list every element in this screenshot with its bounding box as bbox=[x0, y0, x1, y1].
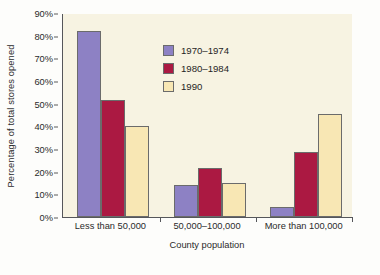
legend-item-label: 1990 bbox=[181, 81, 202, 92]
legend-color-swatch bbox=[163, 45, 174, 56]
legend-color-swatch bbox=[163, 63, 174, 74]
x-axis-group-separator bbox=[352, 217, 353, 222]
x-axis-tick-labels: Less than 50,00050,000–100,000More than … bbox=[62, 221, 352, 237]
y-axis-tick-label: 50% bbox=[34, 100, 53, 110]
y-axis-tick-label: 20% bbox=[34, 168, 53, 178]
y-axis-tick-labels: 0%10%20%30%40%50%60%70%80%90% bbox=[22, 14, 58, 218]
x-axis-tick-label: More than 100,000 bbox=[265, 221, 343, 231]
bar bbox=[318, 114, 342, 217]
y-axis-tick-label: 30% bbox=[34, 145, 53, 155]
y-axis-tick-mark bbox=[54, 195, 58, 196]
legend-item-label: 1970–1974 bbox=[181, 45, 229, 56]
bar bbox=[222, 183, 246, 217]
y-axis-tick-mark bbox=[54, 36, 58, 37]
y-axis-tick-label: 70% bbox=[34, 54, 53, 64]
y-axis-tick-label: 60% bbox=[34, 77, 53, 87]
x-axis-tick-label: 50,000–100,000 bbox=[173, 221, 240, 231]
y-axis-title: Percentage of total stores opened bbox=[0, 0, 22, 232]
bar bbox=[270, 207, 294, 217]
x-axis-tick-label: Less than 50,000 bbox=[75, 221, 146, 231]
bar bbox=[77, 31, 101, 217]
legend-item: 1990 bbox=[163, 78, 229, 95]
chart-legend: 1970–19741980–19841990 bbox=[163, 42, 229, 96]
bar bbox=[198, 168, 222, 217]
legend-item-label: 1980–1984 bbox=[181, 63, 229, 74]
y-axis-tick-mark bbox=[54, 104, 58, 105]
y-axis-tick-mark bbox=[54, 14, 58, 15]
bar bbox=[174, 185, 198, 217]
x-axis-title: County population bbox=[62, 240, 352, 250]
y-axis-tick-mark bbox=[54, 150, 58, 151]
y-axis-tick-mark bbox=[54, 59, 58, 60]
y-axis-tick-label: 10% bbox=[34, 190, 53, 200]
y-axis-tick-label: 80% bbox=[34, 32, 53, 42]
legend-item: 1970–1974 bbox=[163, 42, 229, 59]
y-axis-tick-label: 0% bbox=[40, 213, 53, 223]
y-axis-tick-mark bbox=[54, 218, 58, 219]
bar bbox=[294, 152, 318, 217]
y-axis-title-text: Percentage of total stores opened bbox=[6, 45, 16, 188]
y-axis-tick-mark bbox=[54, 127, 58, 128]
legend-item: 1980–1984 bbox=[163, 60, 229, 77]
bar-chart-figure: Percentage of total stores opened 0%10%2… bbox=[0, 0, 380, 275]
y-axis-tick-mark bbox=[54, 172, 58, 173]
y-axis-tick-label: 40% bbox=[34, 122, 53, 132]
bar bbox=[125, 126, 149, 217]
y-axis-tick-label: 90% bbox=[34, 9, 53, 19]
y-axis-tick-mark bbox=[54, 82, 58, 83]
bar bbox=[101, 100, 125, 217]
legend-color-swatch bbox=[163, 81, 174, 92]
